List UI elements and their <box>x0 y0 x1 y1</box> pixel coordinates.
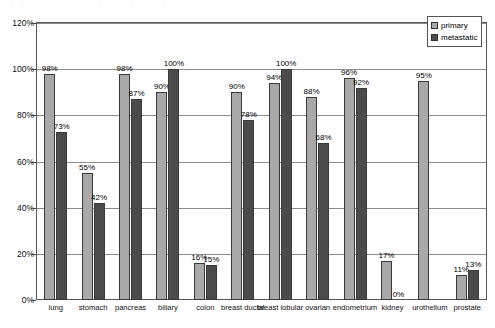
bar-value-label: 78% <box>238 110 259 119</box>
bar-primary-ovarian <box>306 97 317 300</box>
legend-label: metastatic <box>441 33 477 42</box>
bar-value-label: 98% <box>114 64 135 73</box>
y-axis-tick-label: 100% <box>2 64 34 74</box>
bar-value-label: 73% <box>51 122 72 131</box>
bar-value-label: 0% <box>388 290 409 299</box>
x-axis-category-label: prostate <box>454 303 481 312</box>
bar-value-label: 87% <box>126 89 147 98</box>
y-axis-tick <box>31 300 36 301</box>
bar-metastatic-pancreas <box>131 99 142 300</box>
x-axis-category-label: pancreas <box>115 303 146 312</box>
bar-value-label: 15% <box>201 255 222 264</box>
legend-swatch-icon <box>431 34 438 41</box>
y-axis: 0%20%40%60%80%100%120% <box>0 22 34 300</box>
bar-primary-colon <box>194 263 205 300</box>
bar-value-label: 90% <box>226 82 247 91</box>
legend-item-primary: primary <box>431 19 477 31</box>
bar-value-label: 88% <box>301 87 322 96</box>
bar-value-label: 92% <box>351 78 372 87</box>
x-axis-category-label: ovarian <box>305 303 330 312</box>
x-axis: lungstomachpancreasbiliarycolonbreast du… <box>37 303 486 325</box>
legend-swatch-icon <box>431 22 438 29</box>
x-axis-category-label: colon <box>196 303 214 312</box>
x-axis-category-label: stomach <box>79 303 108 312</box>
bar-value-label: 13% <box>463 260 484 269</box>
bar-metastatic-breast-lobular <box>281 69 292 300</box>
bars-layer: 98%73%55%42%98%87%90%100%16%15%90%78%94%… <box>37 23 486 300</box>
y-axis-tick-label: 60% <box>2 157 34 167</box>
bar-metastatic-prostate <box>468 270 479 300</box>
bar-value-label: 68% <box>313 133 334 142</box>
bar-primary-endometrium <box>344 78 355 300</box>
legend-label: primary <box>441 21 468 30</box>
top-cropped-text: · · · · · · · · · · · · · · · · · · · · <box>0 0 495 10</box>
bar-value-label: 100% <box>276 59 297 68</box>
bar-value-label: 98% <box>39 64 60 73</box>
x-axis-category-label: lung <box>49 303 63 312</box>
y-axis-tick-label: 20% <box>2 249 34 259</box>
bar-value-label: 95% <box>413 71 434 80</box>
bar-value-label: 55% <box>77 163 98 172</box>
x-axis-category-label: kidney <box>381 303 403 312</box>
bar-metastatic-ovarian <box>318 143 329 300</box>
bar-primary-breast-ductal <box>231 92 242 300</box>
x-axis-category-label: breast lobular <box>257 303 303 312</box>
bar-metastatic-endometrium <box>356 88 367 300</box>
y-axis-tick-label: 0% <box>2 295 34 305</box>
bar-value-label: 42% <box>89 193 110 202</box>
chart-legend: primarymetastatic <box>427 16 482 47</box>
bar-primary-lung <box>44 74 55 300</box>
bar-value-label: 17% <box>376 251 397 260</box>
bar-value-label: 100% <box>163 59 184 68</box>
bar-metastatic-colon <box>206 265 217 300</box>
bar-primary-pancreas <box>119 74 130 300</box>
bar-metastatic-breast-ductal <box>243 120 254 300</box>
x-axis-category-label: biliary <box>158 303 178 312</box>
y-axis-tick-label: 40% <box>2 203 34 213</box>
bar-primary-breast-lobular <box>269 83 280 300</box>
bar-value-label: 96% <box>339 68 360 77</box>
y-axis-tick-label: 120% <box>2 18 34 28</box>
bar-primary-biliary <box>156 92 167 300</box>
legend-item-metastatic: metastatic <box>431 31 477 43</box>
bar-metastatic-biliary <box>168 69 179 300</box>
x-axis-category-label: endometrium <box>333 303 377 312</box>
bar-metastatic-lung <box>56 132 67 301</box>
bar-chart: · · · · · · · · · · · · · · · · · · · · … <box>0 0 495 328</box>
x-axis-category-label: urothelium <box>412 303 447 312</box>
bar-primary-urothelium <box>418 81 429 300</box>
y-axis-tick-label: 80% <box>2 110 34 120</box>
bar-primary-prostate <box>456 275 467 300</box>
bar-metastatic-stomach <box>94 203 105 300</box>
